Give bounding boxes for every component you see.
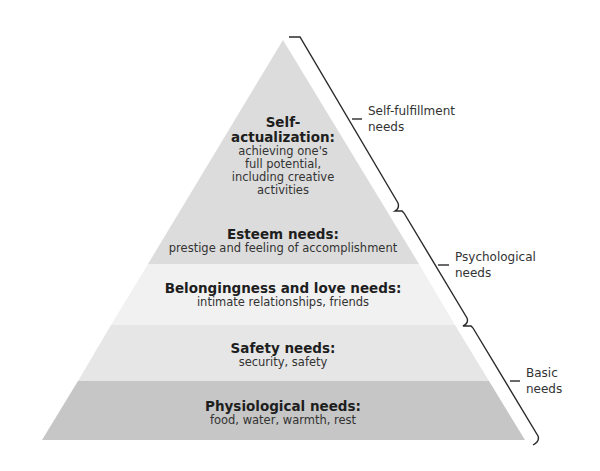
group-label-basic: Basic needs bbox=[526, 365, 562, 397]
group-label-line: needs bbox=[368, 119, 455, 135]
tier-physiological: Physiological needs: food, water, warmth… bbox=[205, 399, 361, 427]
tier-desc: food, water, warmth, rest bbox=[205, 414, 361, 427]
group-label-line: needs bbox=[526, 381, 562, 397]
group-label-line: needs bbox=[455, 265, 536, 281]
tier-desc: intimate relationships, friends bbox=[165, 296, 402, 309]
group-label-psychological: Psychological needs bbox=[455, 249, 536, 281]
tier-title: Esteem needs: bbox=[169, 227, 397, 242]
tier-desc: security, safety bbox=[231, 356, 336, 369]
tier-safety: Safety needs: security, safety bbox=[231, 341, 336, 369]
tier-title: Physiological needs: bbox=[205, 399, 361, 414]
tier-title: Self- bbox=[231, 115, 335, 130]
tier-title: Safety needs: bbox=[231, 341, 336, 356]
tier-desc: activities bbox=[231, 184, 335, 197]
tier-title: actualization: bbox=[231, 130, 335, 145]
tier-self-actualization: Self- actualization: achieving one's ful… bbox=[231, 115, 335, 197]
tier-desc: prestige and feeling of accomplishment bbox=[169, 242, 397, 255]
group-label-self-fulfillment: Self-fulfillment needs bbox=[368, 103, 455, 135]
tier-belongingness: Belongingness and love needs: intimate r… bbox=[165, 281, 402, 309]
tier-title: Belongingness and love needs: bbox=[165, 281, 402, 296]
tier-esteem: Esteem needs: prestige and feeling of ac… bbox=[169, 227, 397, 255]
group-label-line: Psychological bbox=[455, 249, 536, 265]
group-label-line: Basic bbox=[526, 365, 562, 381]
group-label-line: Self-fulfillment bbox=[368, 103, 455, 119]
tier-desc: including creative bbox=[231, 171, 335, 184]
